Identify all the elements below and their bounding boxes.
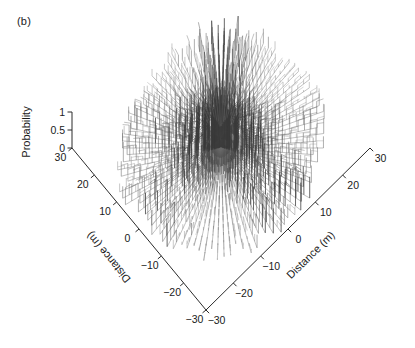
right-distance-tick-label: 10 — [320, 206, 332, 218]
probability-axis-title: Probability — [20, 106, 32, 158]
right-distance-axis-title: Distance (m) — [284, 229, 337, 281]
right-distance-tick-mark — [233, 283, 236, 286]
right-distance-tick-mark — [370, 148, 373, 151]
right-distance-tick-label: −30 — [208, 314, 226, 326]
right-distance-tick-mark — [206, 310, 209, 313]
left-distance-tick-label: 0 — [125, 232, 131, 244]
right-distance-tick-label: 20 — [347, 179, 359, 191]
left-distance-tick-label: −30 — [186, 313, 204, 325]
probability-tick-label: 1 — [59, 106, 65, 118]
right-distance-tick-label: 30 — [375, 152, 387, 164]
stem-plot-3d: −30−20−100102030Distance (m)−30−20−10010… — [0, 0, 415, 348]
figure-panel-b: (b) −30−20−100102030Distance (m)−30−20−1… — [0, 0, 415, 348]
left-distance-tick-label: −20 — [163, 286, 181, 298]
right-distance-tick-mark — [343, 175, 346, 178]
left-distance-tick-mark — [113, 202, 116, 205]
probability-tick-label: 0.5 — [50, 124, 65, 136]
probability-tick-label: 0 — [59, 142, 65, 154]
left-distance-tick-label: −10 — [141, 259, 159, 271]
left-distance-tick-mark — [136, 229, 139, 232]
right-distance-tick-mark — [261, 256, 264, 259]
right-distance-tick-label: −10 — [262, 260, 280, 272]
left-distance-tick-label: 10 — [99, 205, 111, 217]
left-distance-tick-label: 20 — [77, 178, 89, 190]
right-distance-tick-mark — [288, 229, 291, 232]
left-distance-tick-mark — [91, 175, 94, 178]
right-distance-tick-label: −20 — [235, 287, 253, 299]
right-distance-tick-mark — [315, 202, 318, 205]
right-distance-tick-label: 0 — [296, 233, 302, 245]
